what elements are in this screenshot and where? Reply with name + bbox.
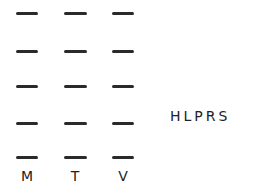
blank-slot	[64, 85, 87, 88]
blank-slot	[64, 50, 87, 53]
blank-slot	[112, 122, 134, 125]
blank-slot	[112, 50, 134, 53]
blank-slot	[64, 12, 87, 15]
blank-slot	[112, 85, 134, 88]
letter-pool: HLPRS	[170, 108, 230, 124]
blank-slot	[64, 122, 87, 125]
blank-slot	[16, 85, 38, 88]
blank-slot	[16, 122, 38, 125]
blank-slot	[112, 12, 134, 15]
blank-slot	[16, 156, 38, 159]
column-letter-m: M	[15, 169, 39, 183]
blank-slot	[64, 156, 87, 159]
blank-slot	[16, 50, 38, 53]
blank-slot	[16, 12, 38, 15]
column-letter-v: V	[111, 169, 135, 183]
column-letter-t: T	[63, 169, 87, 183]
blank-slot	[112, 156, 134, 159]
